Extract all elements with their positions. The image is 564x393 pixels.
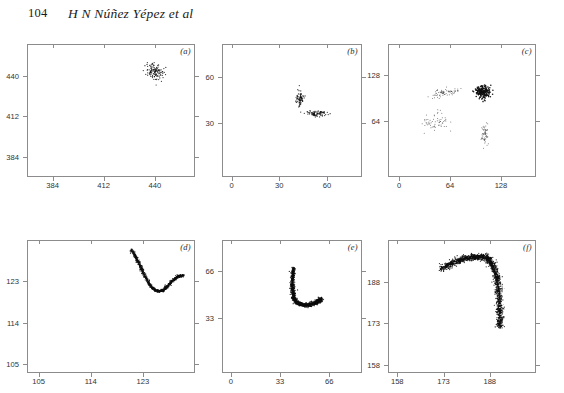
scatter-panel-e: (e)033666633	[222, 240, 362, 373]
scatter-panel-d: (d)105114123123114105	[27, 240, 195, 373]
x-tick-top-b	[327, 44, 328, 48]
x-tick-top-b	[232, 44, 233, 48]
y-tick-b	[218, 77, 222, 78]
y-tick-label-b: 60	[192, 73, 214, 82]
y-tick-label-a: 440	[0, 71, 19, 80]
y-tick-right-d	[195, 323, 199, 324]
y-tick-f	[384, 282, 388, 283]
y-tick-f	[384, 365, 388, 366]
running-head-authors: H N Núñez Yépez et al	[68, 6, 193, 22]
x-tick-top-c	[450, 44, 451, 48]
x-tick-top-d	[39, 240, 40, 244]
x-tick-top-a	[155, 44, 156, 48]
x-tick-label-d: 114	[85, 377, 97, 386]
y-tick-f	[384, 323, 388, 324]
plot-area-f	[388, 240, 536, 373]
page-number: 104	[28, 6, 47, 21]
y-tick-label-e: 66	[192, 267, 214, 276]
y-tick-label-b: 30	[192, 118, 214, 127]
scatter-panel-f: (f)158173188188173158	[388, 240, 536, 373]
panel-label-f: (f)	[523, 242, 532, 252]
y-tick-b	[218, 123, 222, 124]
x-tick-label-d: 123	[137, 377, 150, 386]
x-tick-label-d: 105	[32, 377, 45, 386]
plot-area-b	[222, 44, 362, 177]
x-tick-top-e	[329, 240, 330, 244]
x-tick-top-f	[490, 240, 491, 244]
x-tick-top-f	[444, 240, 445, 244]
y-tick-right-f	[536, 365, 540, 366]
x-tick-label-c: 128	[495, 181, 508, 190]
plot-area-e	[222, 240, 362, 373]
y-tick-right-f	[536, 282, 540, 283]
y-tick-right-c	[536, 121, 540, 122]
x-tick-top-c	[501, 44, 502, 48]
y-tick-label-a: 412	[0, 112, 19, 121]
panel-label-e: (e)	[348, 242, 358, 252]
plot-area-a	[27, 44, 195, 177]
x-tick-top-b	[279, 44, 280, 48]
x-tick-top-e	[280, 240, 281, 244]
x-tick-label-a: 440	[148, 181, 161, 190]
y-tick-label-c: 128	[358, 71, 380, 80]
y-tick-c	[384, 121, 388, 122]
page: 104 H N Núñez Yépez et al (a)38441244044…	[0, 0, 564, 393]
x-tick-top-c	[399, 44, 400, 48]
y-tick-d	[23, 364, 27, 365]
x-tick-label-c: 0	[397, 181, 401, 190]
y-tick-label-d: 123	[0, 277, 19, 286]
y-tick-e	[218, 271, 222, 272]
y-tick-d	[23, 323, 27, 324]
x-tick-label-f: 188	[483, 377, 496, 386]
y-tick-right-d	[195, 364, 199, 365]
scatter-panel-c: (c)06412812864	[388, 44, 536, 177]
y-tick-right-f	[536, 323, 540, 324]
x-tick-label-b: 0	[229, 181, 233, 190]
x-tick-top-f	[397, 240, 398, 244]
y-tick-right-c	[536, 75, 540, 76]
x-tick-top-d	[143, 240, 144, 244]
running-head: 104 H N Núñez Yépez et al	[0, 6, 564, 28]
x-tick-label-a: 384	[46, 181, 59, 190]
y-tick-right-a	[195, 157, 199, 158]
panel-label-c: (c)	[522, 46, 532, 56]
y-tick-label-a: 384	[0, 152, 19, 161]
y-tick-label-f: 158	[358, 360, 380, 369]
y-tick-label-e: 33	[192, 313, 214, 322]
x-tick-top-a	[53, 44, 54, 48]
x-tick-label-e: 33	[276, 377, 284, 386]
x-tick-label-b: 30	[275, 181, 283, 190]
y-tick-label-f: 188	[358, 277, 380, 286]
y-tick-d	[23, 281, 27, 282]
plot-area-d	[27, 240, 195, 373]
x-tick-label-e: 66	[325, 377, 333, 386]
x-tick-top-e	[231, 240, 232, 244]
y-tick-right-d	[195, 281, 199, 282]
y-tick-label-d: 114	[0, 318, 19, 327]
figure-panel-grid: (a)384412440440412384(b)030606030(c)0641…	[0, 28, 564, 393]
x-tick-label-b: 60	[323, 181, 331, 190]
y-tick-label-c: 64	[358, 117, 380, 126]
scatter-panel-a: (a)384412440440412384	[27, 44, 195, 177]
plot-area-c	[388, 44, 536, 177]
scatter-panel-b: (b)030606030	[222, 44, 362, 177]
y-tick-a	[23, 116, 27, 117]
y-tick-c	[384, 75, 388, 76]
x-tick-label-a: 412	[97, 181, 110, 190]
panel-label-a: (a)	[180, 46, 191, 56]
x-tick-top-a	[104, 44, 105, 48]
y-tick-label-f: 173	[358, 319, 380, 328]
x-tick-label-f: 173	[437, 377, 450, 386]
y-tick-label-d: 105	[0, 359, 19, 368]
y-tick-right-e	[362, 271, 366, 272]
y-tick-a	[23, 157, 27, 158]
y-tick-a	[23, 76, 27, 77]
y-tick-e	[218, 318, 222, 319]
panel-label-b: (b)	[347, 46, 358, 56]
x-tick-label-e: 0	[229, 377, 233, 386]
x-tick-top-d	[91, 240, 92, 244]
x-tick-label-c: 64	[446, 181, 454, 190]
panel-label-d: (d)	[180, 242, 191, 252]
x-tick-label-f: 158	[391, 377, 404, 386]
